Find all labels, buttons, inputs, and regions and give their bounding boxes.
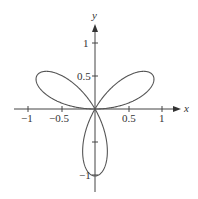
polar-rose-chart: x y −1 −0.5 0.5 1 1 0.5 −1 xyxy=(0,0,198,199)
y-tick-label: 0.5 xyxy=(77,70,91,82)
x-axis-arrow-icon xyxy=(173,106,181,112)
y-tick-label: 1 xyxy=(83,37,89,49)
x-tick-label: 1 xyxy=(159,112,165,124)
x-tick-label: −0.5 xyxy=(49,112,69,124)
x-tick-label: −1 xyxy=(21,112,33,124)
y-tick-label: −1 xyxy=(79,169,91,181)
x-tick-label: 0.5 xyxy=(122,112,136,124)
y-axis-arrow-icon xyxy=(92,24,98,32)
x-axis-label: x xyxy=(183,102,189,114)
y-axis-label: y xyxy=(91,9,97,21)
